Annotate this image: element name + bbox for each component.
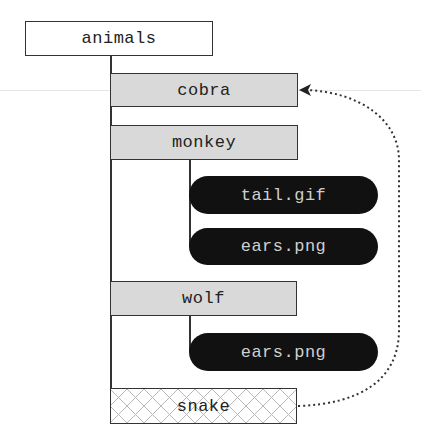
node-monkey-ears-png[interactable]: ears.png	[189, 228, 378, 265]
node-label: animals	[82, 29, 157, 48]
node-cobra[interactable]: cobra	[110, 73, 298, 107]
node-label: ears.png	[241, 343, 327, 362]
link-arrow-overlay	[0, 0, 421, 446]
node-monkey[interactable]: monkey	[110, 125, 298, 160]
node-wolf-ears-png[interactable]: ears.png	[189, 333, 378, 371]
node-label: wolf	[182, 289, 225, 308]
node-tail-gif[interactable]: tail.gif	[189, 176, 378, 214]
node-label: snake	[177, 397, 231, 416]
node-animals[interactable]: animals	[25, 21, 213, 56]
node-snake[interactable]: snake	[110, 388, 297, 424]
node-label: monkey	[172, 133, 236, 152]
node-label: ears.png	[241, 237, 327, 256]
tree-diagram: animals cobra monkey tail.gif ears.png w…	[0, 0, 421, 446]
node-wolf[interactable]: wolf	[110, 281, 297, 316]
node-label: tail.gif	[241, 186, 327, 205]
node-label: cobra	[177, 81, 231, 100]
